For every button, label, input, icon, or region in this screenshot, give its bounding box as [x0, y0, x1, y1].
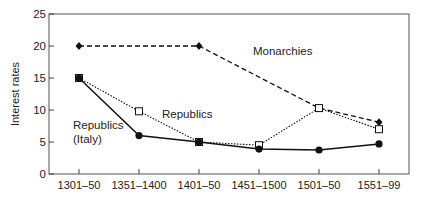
data-point-marker [315, 146, 322, 153]
y-tick-label: 25 [33, 8, 46, 20]
label-republics: Republics [162, 108, 213, 120]
label-republics-italy: (Italy) [73, 133, 102, 145]
y-tick-label: 0 [40, 168, 46, 180]
series-line [79, 78, 379, 145]
y-tick-label: 20 [33, 40, 46, 52]
data-point-marker [195, 138, 202, 145]
data-point-marker [76, 42, 83, 50]
y-tick-label: 15 [33, 72, 46, 84]
data-point-marker [136, 108, 143, 115]
interest-rates-chart: 0510152025Interest rates1301–501351–1400… [0, 0, 425, 201]
y-tick-label: 10 [33, 104, 46, 116]
series-line [79, 46, 379, 122]
label-republics-italy: Republics [73, 119, 124, 131]
data-point-marker [376, 118, 383, 126]
x-tick-label: 1501–50 [298, 179, 341, 191]
label-monarchies: Monarchies [253, 45, 313, 57]
data-point-marker [196, 42, 203, 50]
x-tick-label: 1551–99 [358, 179, 401, 191]
y-axis-label: Interest rates [9, 61, 21, 126]
x-tick-label: 1401–50 [178, 179, 221, 191]
data-point-marker [135, 132, 142, 139]
data-point-marker [75, 74, 82, 81]
data-point-marker [375, 140, 382, 147]
series-line [79, 78, 379, 150]
x-tick-label: 1301–50 [58, 179, 101, 191]
plot-frame [49, 14, 409, 174]
x-tick-label: 1351–1400 [111, 179, 166, 191]
data-point-marker [376, 126, 383, 133]
y-tick-label: 5 [40, 136, 46, 148]
x-tick-label: 1451–1500 [231, 179, 286, 191]
data-point-marker [316, 105, 323, 112]
series-monarchies [76, 42, 383, 126]
data-point-marker [255, 145, 262, 152]
